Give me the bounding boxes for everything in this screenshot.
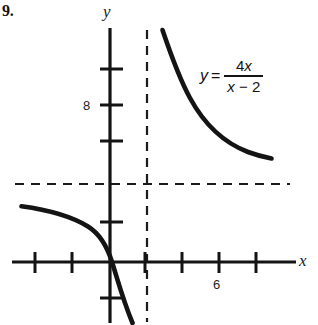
graph-canvas <box>0 0 318 325</box>
equation-equals-sign: = <box>211 67 220 85</box>
x-tick-label-6: 6 <box>213 278 220 291</box>
denominator-constant: 2 <box>252 78 260 95</box>
equation-annotation: y = 4x x − 2 <box>200 58 263 95</box>
equation-numerator: 4x <box>233 58 255 75</box>
equation-fraction: 4x x − 2 <box>224 58 263 95</box>
numerator-coefficient: 4 <box>236 57 244 74</box>
denominator-operator: − <box>239 78 248 95</box>
numerator-variable: x <box>244 57 252 74</box>
denominator-variable: x <box>227 78 235 95</box>
equation-lhs: y <box>200 67 208 85</box>
y-axis-label: y <box>103 3 111 20</box>
x-axis-label: x <box>299 252 307 269</box>
y-tick-label-8: 8 <box>83 99 90 112</box>
equation-denominator: x − 2 <box>224 77 263 95</box>
curve-left-branch <box>22 206 133 323</box>
